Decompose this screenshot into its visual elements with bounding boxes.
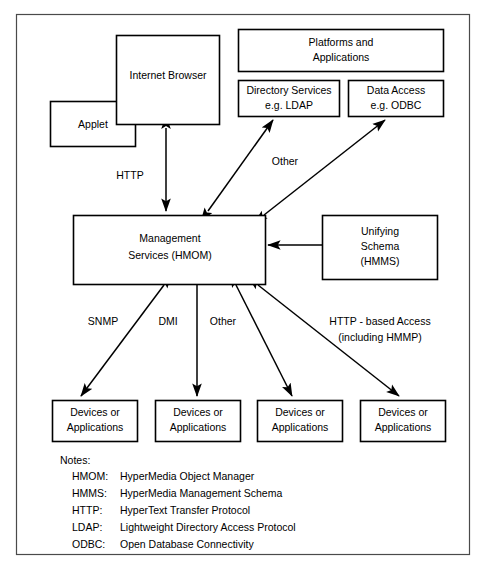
- node-device-1-label-line1: Devices or: [70, 406, 120, 418]
- note-definition-hmms: HyperMedia Management Schema: [120, 487, 282, 499]
- node-directory-services-label-line2: e.g. LDAP: [265, 99, 313, 111]
- node-device-3-label-line1: Devices or: [275, 406, 325, 418]
- edge-label-http-based-access-line1: HTTP - based Access: [329, 315, 430, 327]
- node-unifying-schema-label-line2: Schema: [361, 240, 400, 252]
- node-management-services-label-line2: Services (HMOM): [128, 249, 211, 261]
- node-device-4-label-line1: Devices or: [378, 406, 428, 418]
- node-platforms-and-applications[interactable]: Platforms and Applications: [239, 30, 444, 72]
- node-device-2-label-line2: Applications: [170, 421, 227, 433]
- node-management-services[interactable]: Management Services (HMOM): [74, 216, 266, 285]
- node-internet-browser-label: Internet Browser: [129, 69, 207, 81]
- edge-label-http-based-access-line2: (including HMMP): [338, 331, 421, 343]
- node-device-1-label-line2: Applications: [67, 421, 124, 433]
- node-device-2-label-line1: Devices or: [173, 406, 223, 418]
- note-definition-hmom: HyperMedia Object Manager: [120, 470, 255, 482]
- node-device-1[interactable]: Devices or Applications: [53, 401, 138, 442]
- node-device-4[interactable]: Devices or Applications: [361, 401, 446, 442]
- note-term-ldap: LDAP:: [72, 521, 102, 533]
- note-term-odbc: ODBC:: [72, 538, 105, 550]
- node-data-access[interactable]: Data Access e.g. ODBC: [349, 81, 444, 117]
- note-term-hmom: HMOM:: [72, 470, 108, 482]
- node-directory-services-label-line1: Directory Services: [246, 84, 331, 96]
- node-device-2[interactable]: Devices or Applications: [156, 401, 241, 442]
- node-data-access-label-line2: e.g. ODBC: [371, 99, 422, 111]
- edge-label-snmp: SNMP: [88, 315, 118, 327]
- edge-label-other-top: Other: [272, 155, 299, 167]
- note-definition-ldap: Lightweight Directory Access Protocol: [120, 521, 296, 533]
- node-data-access-label-line1: Data Access: [367, 84, 425, 96]
- node-platforms-label-line2: Applications: [313, 51, 370, 63]
- edge-label-dmi: DMI: [158, 315, 177, 327]
- node-directory-services[interactable]: Directory Services e.g. LDAP: [239, 81, 340, 117]
- node-unifying-schema[interactable]: Unifying Schema (HMMS): [323, 216, 438, 280]
- node-device-3[interactable]: Devices or Applications: [258, 401, 343, 442]
- node-platforms-label-line1: Platforms and: [309, 36, 374, 48]
- node-device-4-label-line2: Applications: [375, 421, 432, 433]
- notes-heading: Notes:: [60, 454, 90, 466]
- note-term-hmms: HMMS:: [72, 487, 107, 499]
- node-unifying-schema-label-line1: Unifying: [361, 225, 399, 237]
- architecture-diagram: Applet Internet Browser Platforms and Ap…: [0, 0, 485, 568]
- node-device-3-label-line2: Applications: [272, 421, 329, 433]
- edge-label-other-bottom: Other: [210, 315, 237, 327]
- note-definition-http: HyperText Transfer Protocol: [120, 504, 250, 516]
- edge-label-http: HTTP: [116, 169, 143, 181]
- node-unifying-schema-label-line3: (HMMS): [360, 255, 399, 267]
- node-internet-browser[interactable]: Internet Browser: [117, 36, 220, 125]
- node-applet-label: Applet: [78, 118, 108, 130]
- note-term-http: HTTP:: [72, 504, 102, 516]
- diagram-canvas: Applet Internet Browser Platforms and Ap…: [0, 0, 485, 568]
- node-management-services-label-line1: Management: [139, 232, 200, 244]
- note-definition-odbc: Open Database Connectivity: [120, 538, 254, 550]
